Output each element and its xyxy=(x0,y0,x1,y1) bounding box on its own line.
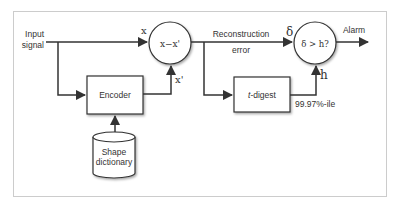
encoder-label: Encoder xyxy=(99,90,131,100)
reconstruction-label: Reconstruction xyxy=(213,29,270,39)
input-signal-label-2: signal xyxy=(22,40,44,50)
tdigest-label: t-digest xyxy=(248,90,277,100)
x-label: x xyxy=(141,25,147,36)
percentile-label: 99.97%-ile xyxy=(295,99,335,109)
subtract-node-label: x−x' xyxy=(160,39,180,49)
anomaly-detection-diagram: Input signal x x−x' Encoder x' Shape dic… xyxy=(0,0,396,207)
alarm-label: Alarm xyxy=(343,25,365,35)
shape-dictionary-label: Shape xyxy=(102,147,127,157)
h-label: h xyxy=(320,68,328,82)
reconstruction-label-2: error xyxy=(232,45,250,55)
input-signal-label: Input xyxy=(25,29,45,39)
x-prime-label: x' xyxy=(175,74,183,85)
threshold-node-label: δ > h? xyxy=(301,39,329,49)
delta-label: δ xyxy=(286,25,293,39)
shape-dictionary-label-2: dictionary xyxy=(96,157,133,167)
